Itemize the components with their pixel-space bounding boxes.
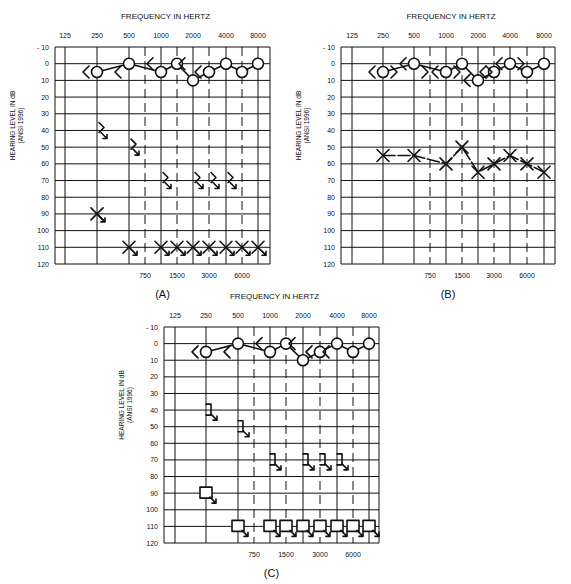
y-tick-label: 10	[327, 77, 335, 84]
y-tick-label: 110	[38, 244, 49, 251]
svg-text:HEARING LEVEL IN dB: HEARING LEVEL IN dB	[295, 91, 302, 160]
x-top-tick-label: 1000	[153, 32, 169, 39]
x-bottom-tick-label: 6000	[234, 272, 250, 279]
svg-text:(ANSI 1996): (ANSI 1996)	[303, 108, 311, 144]
svg-text:(ANSI 1996): (ANSI 1996)	[126, 387, 134, 423]
x-bottom-tick-label: 6000	[345, 551, 361, 558]
series-line	[383, 147, 544, 172]
grid	[55, 47, 270, 264]
x-bottom-tick-label: 1500	[454, 272, 470, 279]
x-top-tick-label: 125	[346, 32, 358, 39]
x-top-tick-label: 1000	[438, 32, 454, 39]
y-tick-label: - 10	[146, 324, 158, 331]
y-tick-label: 120	[37, 261, 49, 268]
y-tick-label: 120	[323, 261, 335, 268]
x-top-tick-label: 250	[377, 32, 389, 39]
y-tick-label: 20	[41, 94, 49, 101]
y-tick-label: 80	[327, 194, 335, 201]
x-top-tick-label: 125	[59, 32, 71, 39]
x-top-tick-label: 250	[200, 312, 212, 319]
data-markers	[192, 338, 379, 537]
y-tick-label: 90	[150, 490, 158, 497]
data-markers	[83, 58, 266, 256]
y-tick-label: 60	[150, 440, 158, 447]
x-bottom-tick-label: 1500	[278, 551, 294, 558]
y-tick-label: 120	[146, 540, 158, 547]
y-tick-label: 90	[327, 210, 335, 217]
x-bottom-tick-label: 3000	[486, 272, 502, 279]
x-top-tick-label: 500	[123, 32, 135, 39]
y-tick-label: 70	[150, 456, 158, 463]
y-tick-label: 110	[147, 523, 158, 530]
y-axis-label: HEARING LEVEL IN dB(ANSI 1996)	[118, 370, 134, 439]
x-bottom-tick-label: 750	[248, 551, 260, 558]
x-top-tick-label: 8000	[536, 32, 552, 39]
x-bottom-tick-label: 3000	[312, 551, 328, 558]
x-top-tick-label: 4000	[502, 32, 518, 39]
y-tick-label: 10	[41, 77, 49, 84]
x-top-tick-label: 8000	[361, 312, 377, 319]
y-tick-label: 10	[150, 357, 158, 364]
x-top-tick-label: 125	[169, 312, 181, 319]
y-tick-label: 0	[331, 60, 335, 67]
x-top-tick-label: 2000	[470, 32, 486, 39]
x-bottom-tick-label: 6000	[519, 272, 535, 279]
y-tick-label: 0	[154, 340, 158, 347]
x-top-tick-label: 500	[408, 32, 420, 39]
x-top-tick-label: 2000	[295, 312, 311, 319]
y-tick-label: 30	[150, 390, 158, 397]
x-bottom-tick-label: 3000	[201, 272, 217, 279]
grid	[164, 327, 379, 543]
y-tick-label: 90	[41, 210, 49, 217]
y-tick-label: 80	[41, 194, 49, 201]
y-tick-label: 40	[41, 127, 49, 134]
svg-text:HEARING LEVEL IN dB: HEARING LEVEL IN dB	[118, 370, 125, 439]
panel-label: (A)	[155, 288, 170, 300]
x-bottom-tick-label: 750	[139, 272, 151, 279]
audiogram-a: FREQUENCY IN HERTZ1252505001000200040008…	[9, 12, 270, 300]
svg-text:HEARING LEVEL IN dB: HEARING LEVEL IN dB	[9, 91, 16, 160]
x-top-tick-label: 500	[232, 312, 244, 319]
y-tick-label: 50	[41, 144, 49, 151]
x-top-tick-label: 4000	[329, 312, 345, 319]
y-tick-label: 70	[327, 177, 335, 184]
x-top-tick-label: 4000	[218, 32, 234, 39]
x-bottom-tick-label: 750	[424, 272, 436, 279]
audiogram-c: FREQUENCY IN HERTZ1252505001000200040008…	[118, 292, 379, 579]
x-top-tick-label: 1000	[262, 312, 278, 319]
x-top-tick-label: 250	[91, 32, 103, 39]
y-tick-label: - 10	[323, 44, 335, 51]
y-tick-label: 30	[41, 110, 49, 117]
audiogram-figure: FREQUENCY IN HERTZ1252505001000200040008…	[0, 0, 571, 584]
y-tick-label: 60	[41, 160, 49, 167]
audiogram-b: FREQUENCY IN HERTZ1252505001000200040008…	[295, 12, 555, 300]
panel-label: (C)	[264, 567, 279, 579]
chart-title: FREQUENCY IN HERTZ	[121, 12, 210, 21]
chart-title: FREQUENCY IN HERTZ	[406, 12, 495, 21]
x-bottom-tick-label: 1500	[169, 272, 185, 279]
svg-text:(ANSI 1996): (ANSI 1996)	[17, 108, 25, 144]
y-tick-label: 0	[45, 60, 49, 67]
data-markers	[369, 58, 550, 179]
chart-title: FREQUENCY IN HERTZ	[230, 292, 319, 301]
y-tick-label: - 10	[37, 44, 49, 51]
y-tick-label: 50	[150, 423, 158, 430]
y-tick-label: 40	[327, 127, 335, 134]
y-tick-label: 100	[37, 227, 49, 234]
y-tick-label: 40	[150, 407, 158, 414]
y-tick-label: 30	[327, 110, 335, 117]
y-tick-label: 110	[324, 244, 335, 251]
y-tick-label: 70	[41, 177, 49, 184]
y-tick-label: 100	[146, 506, 158, 513]
panel-label: (B)	[441, 288, 456, 300]
x-top-tick-label: 2000	[185, 32, 201, 39]
y-tick-label: 20	[327, 94, 335, 101]
grid	[341, 47, 555, 264]
y-tick-label: 100	[323, 227, 335, 234]
y-tick-label: 60	[327, 160, 335, 167]
y-tick-label: 80	[150, 473, 158, 480]
y-tick-label: 50	[327, 144, 335, 151]
y-axis-label: HEARING LEVEL IN dB(ANSI 1996)	[9, 91, 25, 160]
y-axis-label: HEARING LEVEL IN dB(ANSI 1996)	[295, 91, 311, 160]
x-top-tick-label: 8000	[250, 32, 266, 39]
